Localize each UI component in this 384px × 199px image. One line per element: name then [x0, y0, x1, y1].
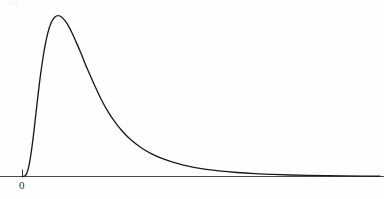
density-curve — [23, 16, 381, 177]
x-axis-tick-label-0: 0 — [19, 180, 25, 191]
plot-canvas — [0, 0, 384, 199]
density-plot-figure: 0 — [0, 0, 384, 199]
